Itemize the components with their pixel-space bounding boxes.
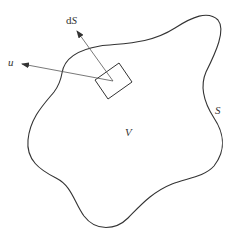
volume-label: V [125, 127, 132, 138]
normal-vector-label: dS [66, 15, 77, 26]
control-volume-diagram [0, 0, 243, 237]
velocity-label: u [8, 57, 14, 68]
surface-boundary-curve [28, 15, 223, 227]
surface-element-square [95, 63, 132, 99]
velocity-vector-arrow [22, 64, 113, 81]
normal-vector-arrow [77, 31, 113, 81]
surface-label: S [215, 105, 221, 116]
differential-S: S [72, 14, 78, 26]
